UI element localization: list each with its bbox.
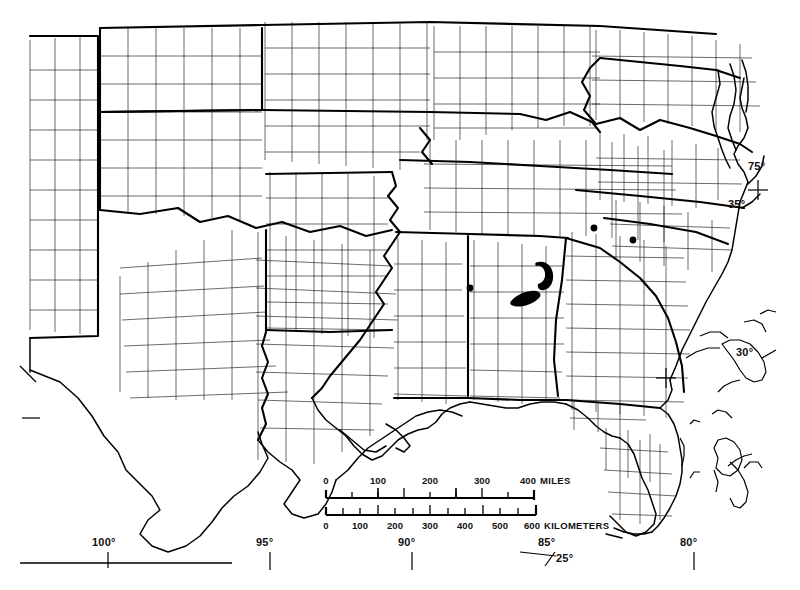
scale-miles-tick-300: 300 (474, 475, 490, 486)
scale-km-tick-500: 500 (492, 520, 508, 531)
marker-south-carolina-1 (630, 237, 637, 244)
scale-miles-tick-400: 400 (520, 475, 536, 486)
scale-miles-unit-label: MILES (540, 475, 571, 486)
scale-km-unit-label: KILOMETERS (544, 520, 609, 531)
scale-km-tick-0: 0 (323, 520, 328, 531)
scale-km-tick-300: 300 (422, 520, 438, 531)
scale-miles-tick-200: 200 (422, 475, 438, 486)
latitude-label-25n: 25° (556, 552, 573, 564)
scale-km-tick-200: 200 (387, 520, 403, 531)
longitude-label-90w: 90° (398, 536, 415, 548)
scale-miles-tick-0: 0 (323, 475, 328, 486)
marker-mississippi-1 (467, 285, 474, 292)
longitude-label-75w: 75° (748, 160, 765, 172)
scale-km-tick-100: 100 (352, 520, 368, 531)
map-figure: 0 100 200 300 400 MILES (0, 0, 800, 590)
latitude-label-30n: 30° (736, 346, 753, 358)
latitude-label-35n: 35° (728, 198, 745, 210)
longitude-label-95w: 95° (256, 536, 273, 548)
longitude-label-85w: 85° (538, 536, 555, 548)
longitude-label-100w: 100° (92, 536, 116, 548)
map-canvas: 0 100 200 300 400 MILES (0, 0, 800, 590)
scale-km-tick-600: 600 (524, 520, 540, 531)
scale-km-tick-400: 400 (457, 520, 473, 531)
marker-georgia-1 (591, 225, 598, 232)
scale-miles-tick-100: 100 (370, 475, 386, 486)
longitude-label-80w: 80° (680, 536, 697, 548)
